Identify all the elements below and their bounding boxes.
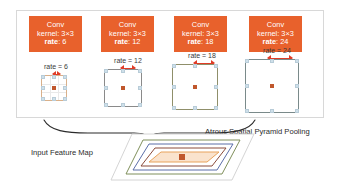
kernel-tap — [214, 106, 218, 110]
conv-box-rate: rate: 6 — [45, 38, 67, 47]
kernel-tap — [193, 64, 197, 68]
feature-map-center — [179, 154, 185, 160]
conv-box-rate-value: 18 — [205, 37, 213, 46]
kernel-grid-rate-18 — [172, 64, 218, 110]
kernel-center-tap — [52, 86, 56, 90]
kernel-tap — [270, 109, 274, 113]
conv-box-rate-bold: rate — [45, 37, 59, 46]
kernel-tap — [63, 86, 67, 90]
kernel-grid-rate-6 — [41, 75, 67, 101]
conv-box-rate-value: 24 — [280, 37, 288, 46]
kernel-tap — [104, 103, 108, 107]
kernel-tap — [63, 97, 67, 101]
conv-box-rate-bold: rate — [115, 37, 129, 46]
kernel-tap — [270, 59, 274, 63]
conv-box-rate-bold: rate — [263, 37, 277, 46]
kernel-tap — [52, 75, 56, 79]
kernel-tap — [214, 85, 218, 89]
rate-caption: rate = 18 — [173, 52, 231, 59]
input-feature-map-caption: Input Feature Map — [31, 148, 93, 157]
kernel-tap — [245, 84, 249, 88]
kernel-tap — [63, 75, 67, 79]
conv-box-rate-6: Conv kernel: 3×3 rate: 6 — [29, 16, 82, 52]
kernel-tap — [138, 103, 142, 107]
conv-box-rate-12: Conv kernel: 3×3 rate: 12 — [101, 16, 154, 52]
kernel-tap — [214, 64, 218, 68]
grid-line — [42, 92, 66, 93]
kernel-tap — [138, 86, 142, 90]
kernel-tap — [172, 106, 176, 110]
conv-box-rate-18: Conv kernel: 3×3 rate: 18 — [174, 16, 227, 52]
kernel-tap — [295, 109, 299, 113]
conv-box-rate: rate: 24 — [263, 38, 289, 47]
kernel-tap — [138, 69, 142, 73]
conv-box-rate-value: 6 — [62, 37, 66, 46]
kernel-grid-rate-24 — [245, 59, 299, 113]
kernel-tap — [41, 75, 45, 79]
conv-box-rate: rate: 12 — [115, 38, 141, 47]
kernel-tap — [104, 86, 108, 90]
aspp-figure: Conv kernel: 3×3 rate: 6 rate = 6 — [0, 0, 341, 183]
kernel-tap — [193, 106, 197, 110]
kernel-tap — [295, 59, 299, 63]
kernel-tap — [245, 109, 249, 113]
kernel-tap — [172, 85, 176, 89]
kernel-center-tap — [121, 86, 125, 90]
grid-line — [58, 76, 59, 100]
input-feature-map-icon — [110, 132, 255, 182]
conv-box-rate-bold: rate — [188, 37, 202, 46]
conv-box-rate-value: 12 — [132, 37, 140, 46]
kernel-tap — [104, 69, 108, 73]
kernel-tap — [295, 84, 299, 88]
rate-caption: rate = 24 — [245, 47, 309, 54]
kernel-tap — [52, 97, 56, 101]
kernel-tap — [121, 103, 125, 107]
grid-line — [50, 76, 51, 100]
kernel-tap — [172, 64, 176, 68]
conv-box-rate: rate: 18 — [188, 38, 214, 47]
kernel-tap — [41, 97, 45, 101]
rate-caption: rate = 6 — [36, 63, 76, 70]
kernel-tap — [41, 86, 45, 90]
kernel-center-tap — [193, 85, 197, 89]
grid-line — [42, 84, 66, 85]
kernel-tap — [245, 59, 249, 63]
aspp-panel: Conv kernel: 3×3 rate: 6 rate = 6 — [16, 10, 324, 118]
rate-caption: rate = 12 — [102, 57, 154, 64]
kernel-center-tap — [270, 84, 274, 88]
kernel-tap — [121, 69, 125, 73]
kernel-grid-rate-12 — [104, 69, 142, 107]
